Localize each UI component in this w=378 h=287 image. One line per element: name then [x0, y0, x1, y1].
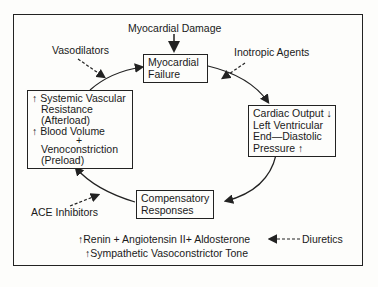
box-line: Cardiac Output ↓ [253, 108, 331, 120]
sympathetic-tone-line: ↑Sympathetic Vasoconstrictor Tone [85, 247, 248, 259]
diuretics-label: Diuretics [302, 233, 343, 245]
inotropic-agents-label: Inotropic Agents [234, 46, 309, 58]
box-line: Failure [148, 69, 203, 81]
box-line: (Preload) [32, 155, 128, 166]
myocardial-failure-box: Myocardial Failure [143, 54, 208, 83]
box-line: End—Diastolic [253, 131, 331, 143]
box-line: Myocardial [148, 57, 203, 69]
vasodilators-label: Vasodilators [52, 44, 109, 56]
box-line: Pressure ↑ [253, 143, 331, 155]
systemic-resistance-box: ↑ Systemic Vascular Resistance (Afterloa… [27, 90, 133, 169]
ace-inhibitors-label: ACE Inhibitors [31, 206, 98, 218]
cardiac-output-box: Cardiac Output ↓ Left Ventricular End—Di… [248, 105, 336, 157]
box-line: Responses [141, 205, 209, 217]
box-line: Compensatory [141, 193, 209, 205]
compensatory-responses-box: Compensatory Responses [136, 190, 214, 219]
myocardial-damage-label: Myocardial Damage [128, 22, 221, 34]
renin-angiotensin-line: ↑Renin + Angiotensin II+ Aldosterone [78, 233, 250, 245]
